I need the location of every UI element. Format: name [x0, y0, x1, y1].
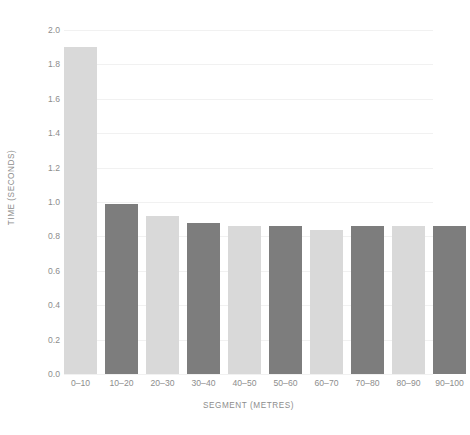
x-tick-label: 90–100	[428, 378, 470, 388]
y-tick-label: 0.0	[26, 369, 60, 379]
bar	[105, 204, 138, 374]
bar	[392, 226, 425, 374]
bar	[433, 226, 466, 374]
y-tick-label: 0.6	[26, 266, 60, 276]
y-axis-title: TIME (SECONDS)	[0, 0, 24, 374]
y-tick-label: 1.4	[26, 128, 60, 138]
y-axis-title-label: TIME (SECONDS)	[8, 149, 17, 224]
bar	[187, 223, 220, 374]
x-tick-label: 10–20	[100, 378, 144, 388]
x-axis-tick-labels: 0–1010–2020–3030–4040–5050–6060–7070–808…	[64, 378, 433, 392]
bar	[351, 226, 384, 374]
bar	[146, 216, 179, 374]
plot-area	[64, 30, 433, 374]
bar	[64, 47, 97, 374]
x-tick-label: 60–70	[305, 378, 349, 388]
bar	[228, 226, 261, 374]
x-tick-label: 80–90	[387, 378, 431, 388]
x-tick-label: 40–50	[223, 378, 267, 388]
x-tick-label: 30–40	[182, 378, 226, 388]
y-tick-label: 2.0	[26, 25, 60, 35]
y-tick-label: 1.8	[26, 59, 60, 69]
x-tick-label: 20–30	[141, 378, 185, 388]
x-axis-title: SEGMENT (METRES)	[64, 401, 433, 410]
x-tick-label: 50–60	[264, 378, 308, 388]
bar	[269, 226, 302, 374]
bars-group	[64, 30, 433, 374]
y-tick-label: 0.8	[26, 231, 60, 241]
y-tick-label: 0.4	[26, 300, 60, 310]
x-tick-label: 70–80	[346, 378, 390, 388]
x-tick-label: 0–10	[59, 378, 103, 388]
y-tick-label: 1.0	[26, 197, 60, 207]
y-tick-label: 1.2	[26, 163, 60, 173]
y-tick-label: 0.2	[26, 335, 60, 345]
y-tick-label: 1.6	[26, 94, 60, 104]
gridline	[64, 374, 433, 375]
y-axis-tick-labels: 0.00.20.40.60.81.01.21.41.61.82.0	[26, 0, 60, 435]
bar	[310, 230, 343, 374]
